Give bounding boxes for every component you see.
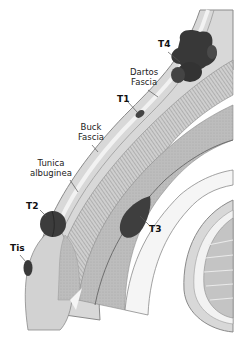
scrotum bbox=[184, 200, 233, 332]
tumor-tis bbox=[24, 260, 33, 276]
label-t4: T4 bbox=[158, 39, 170, 49]
staging-diagram: T4 Dartos Fascia T1 Buck Fascia Tunica a… bbox=[0, 0, 246, 338]
label-t2: T2 bbox=[26, 201, 38, 211]
label-buck-fascia: Buck Fascia bbox=[78, 122, 104, 142]
tumor-t2 bbox=[40, 211, 66, 237]
label-tunica-albuginea: Tunica albuginea bbox=[30, 158, 72, 178]
label-dartos-fascia: Dartos Fascia bbox=[130, 67, 158, 87]
label-tis: Tis bbox=[10, 243, 25, 253]
label-t1: T1 bbox=[117, 94, 129, 104]
label-t3: T3 bbox=[149, 224, 161, 234]
